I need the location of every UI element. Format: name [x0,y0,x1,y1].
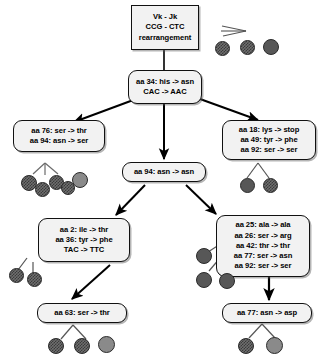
cell-cluster-right3 [0,0,325,364]
cell-icon [266,337,283,354]
cell-icon [238,338,254,354]
lineage-diagram: Vk - Jk CCG - CTC rearrangement aa 34: h… [0,0,325,364]
